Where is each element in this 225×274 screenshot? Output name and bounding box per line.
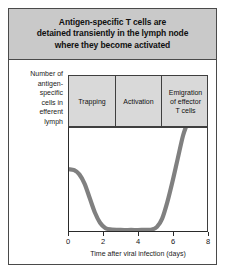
y-axis-label-line-6: lymph — [11, 117, 63, 127]
phase-legend-bar: Trapping Activation Emigration of effect… — [68, 75, 208, 127]
y-axis-label-line-3: specific — [11, 88, 63, 98]
x-axis-tick-labels: 02468 — [68, 237, 208, 248]
y-axis-label-line-1: Number of — [11, 69, 63, 79]
x-axis-label: Time after viral infection (days) — [68, 250, 208, 257]
x-axis-tick — [103, 232, 104, 236]
figure-title-line-3: where they become activated — [37, 40, 189, 52]
phase-trapping-label: Trapping — [78, 97, 105, 106]
y-axis-label-line-5: efferent — [11, 107, 63, 117]
phase-cell-emigration: Emigration of effector T cells — [162, 76, 209, 126]
data-curve — [69, 128, 207, 231]
x-axis-tick — [68, 232, 69, 236]
plot-area — [68, 127, 208, 232]
figure-panel: Antigen-specific T cells are detained tr… — [8, 8, 217, 265]
y-axis-label-line-2: antigen- — [11, 79, 63, 89]
x-axis-tick-label: 2 — [101, 237, 105, 246]
x-axis-tick-label: 0 — [66, 237, 70, 246]
phase-emigration-label-line-3: T cells — [169, 106, 202, 115]
phase-emigration-label-line-2: of effector — [169, 97, 202, 106]
phase-activation-label: Activation — [123, 97, 153, 106]
y-axis-label: Number of antigen- specific cells in eff… — [11, 69, 63, 127]
x-axis-tick-label: 6 — [171, 237, 175, 246]
y-axis-label-line-4: cells in — [11, 98, 63, 108]
figure-title-line-1: Antigen-specific T cells are — [37, 17, 189, 29]
x-axis-tick — [138, 232, 139, 236]
x-axis-tick — [208, 232, 209, 236]
x-axis-tick — [173, 232, 174, 236]
figure-title-line-2: detained transiently in the lymph node — [37, 28, 189, 40]
phase-cell-activation: Activation — [116, 76, 162, 126]
x-axis-tick-label: 8 — [206, 237, 210, 246]
figure-title-bar: Antigen-specific T cells are detained tr… — [9, 9, 216, 60]
figure-title: Antigen-specific T cells are detained tr… — [31, 17, 195, 52]
phase-cell-trapping: Trapping — [69, 76, 116, 126]
chart-container: Number of antigen- specific cells in eff… — [9, 61, 216, 265]
x-axis-tick-label: 4 — [136, 237, 140, 246]
phase-emigration-label-line-1: Emigration — [169, 88, 202, 97]
